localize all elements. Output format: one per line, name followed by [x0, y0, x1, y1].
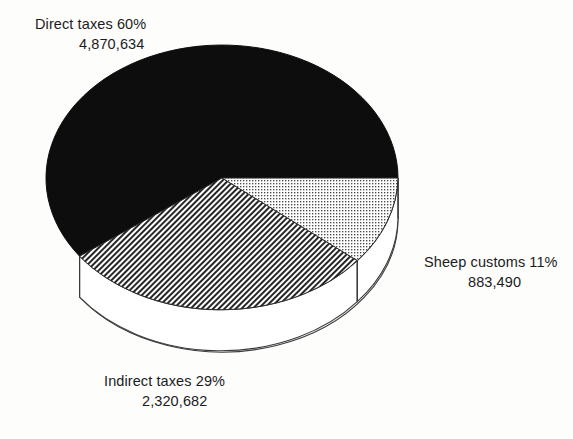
slice-label-sheep-customs: Sheep customs 11% 883,490 [424, 252, 558, 292]
slice-label-sheep-customs-title: Sheep customs 11% [424, 252, 558, 272]
slice-label-indirect-taxes: Indirect taxes 29% 2,320,682 [104, 371, 225, 411]
pie-top-face [46, 45, 398, 310]
slice-label-direct-taxes-value: 4,870,634 [35, 34, 146, 54]
slice-label-indirect-taxes-title: Indirect taxes 29% [104, 371, 225, 391]
slice-label-sheep-customs-value: 883,490 [424, 272, 558, 292]
slice-label-indirect-taxes-value: 2,320,682 [104, 391, 225, 411]
slice-label-direct-taxes-title: Direct taxes 60% [35, 14, 146, 34]
pie-chart-figure: Direct taxes 60% 4,870,634 Sheep customs… [0, 0, 573, 439]
pie-chart-graphic [0, 0, 573, 439]
slice-label-direct-taxes: Direct taxes 60% 4,870,634 [35, 14, 146, 54]
